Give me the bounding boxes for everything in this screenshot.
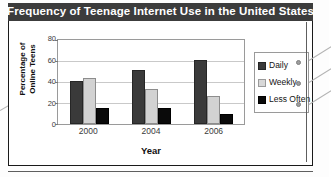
legend-swatch-less-often-icon [258,96,266,104]
bottom-rule [8,171,313,172]
x-tick-2000: 2000 [79,127,98,141]
bar-less-often-2000 [96,108,109,124]
bar-groups [58,40,244,124]
x-axis-tick-labels: 2000 2004 2006 [57,127,245,141]
bar-less-often-2006 [220,114,233,125]
y-axis-title-line2: Online Teens [28,44,37,94]
bar-daily-2000 [70,81,83,124]
y-tick-0: 0 [52,121,56,129]
y-tick-80: 80 [48,35,56,43]
legend-label-less-often: Less Often [269,95,310,104]
callout-dot-2 [296,81,301,86]
x-axis-title: Year [57,145,245,156]
plot-area-wrapper: Percentage of Online Teens 80 60 40 20 0… [8,21,313,166]
tickmark-0 [55,124,58,125]
bar-group-2004 [132,40,171,124]
bar-weekly-2000 [83,78,96,124]
callout-dot-3 [296,102,301,107]
bar-group-2000 [70,40,109,124]
legend-swatch-daily-icon [258,62,266,70]
legend-label-weekly: Weekly [269,78,297,87]
bar-daily-2004 [132,70,145,124]
plot-box [57,39,245,125]
callout-dot-1 [296,60,301,65]
chart-title-bar: Frequency of Teenage Internet Use in the… [8,3,313,21]
bar-group-2006 [194,40,233,124]
x-tick-2006: 2006 [204,127,223,141]
bar-less-often-2004 [158,108,171,124]
legend-label-daily: Daily [269,61,288,70]
x-tick-2004: 2004 [142,127,161,141]
chart-title: Frequency of Teenage Internet Use in the… [7,6,314,18]
callout-vertical-rule [306,22,307,162]
legend-swatch-weekly-icon [258,79,266,87]
bar-weekly-2004 [145,89,158,124]
bar-daily-2006 [194,60,207,124]
bar-weekly-2006 [207,96,220,124]
y-axis-title-line1: Percentage of [18,43,27,96]
